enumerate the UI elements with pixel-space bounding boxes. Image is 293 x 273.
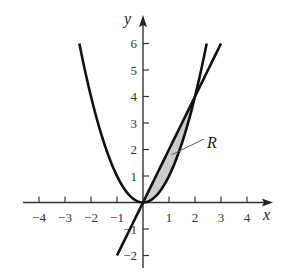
x-tick-label: −4 [32,210,46,225]
x-tick-label: 1 [166,210,173,225]
y-tick-label: 4 [131,89,138,104]
ticks: −4−3−2−11234−2−1123456 [32,36,251,263]
y-tick-label: 2 [131,142,138,157]
x-tick-label: 3 [218,210,225,225]
x-tick-label: −2 [84,210,98,225]
curves [79,44,221,256]
labels: Rxy [122,10,270,223]
y-tick-label: −2 [123,248,137,263]
y-axis-label: y [122,10,132,28]
y-tick-label: 5 [131,63,138,78]
x-tick-label: 4 [244,210,251,225]
axes [23,15,273,268]
region-label: R [206,134,217,151]
x-tick-label: −1 [110,210,124,225]
y-tick-label: 3 [131,116,138,131]
x-tick-label: −3 [58,210,72,225]
x-tick-label: 2 [192,210,199,225]
x-axis-label: x [262,206,270,223]
y-tick-label: 6 [131,36,138,51]
chart: −4−3−2−11234−2−1123456 Rxy [0,0,293,273]
y-tick-label: 1 [131,169,138,184]
